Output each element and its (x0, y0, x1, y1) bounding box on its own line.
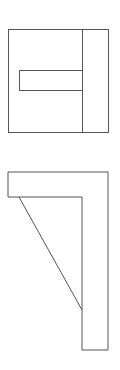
top-view (9, 30, 109, 133)
top-view-outer-rect (9, 30, 109, 133)
top-view-inner-slot (20, 71, 83, 91)
front-view-outline (8, 172, 108, 350)
front-view-diagonal-line (19, 197, 82, 310)
orthographic-drawing (0, 0, 120, 370)
front-view (8, 172, 108, 350)
